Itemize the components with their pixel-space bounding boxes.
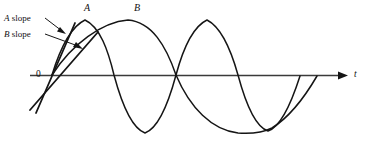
- t-axis-arrowhead: [338, 72, 348, 80]
- b-slope-annotation: B slope: [4, 30, 31, 39]
- t-axis-label: t: [354, 70, 357, 80]
- figure-container: A slope B slope A B 0 t: [0, 0, 369, 145]
- b-slope-word: slope: [12, 29, 31, 39]
- origin-label: 0: [36, 70, 41, 80]
- a-slope-word: slope: [12, 13, 31, 23]
- waveform-plot: [0, 0, 369, 145]
- a-slope-leader: [45, 18, 66, 34]
- curve-b-label: B: [134, 3, 140, 13]
- curve-a-label: A: [84, 3, 90, 13]
- curve-b: [52, 20, 317, 133]
- b-slope-leader-line: [45, 34, 78, 46]
- a-slope-annotation: A slope: [4, 14, 31, 23]
